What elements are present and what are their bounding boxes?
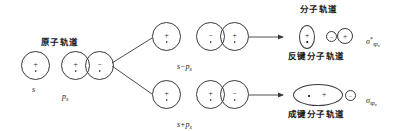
sigma-star-notation: σ*spx bbox=[366, 31, 380, 48]
antibonding-minor-lobe-negative-sign: − bbox=[327, 34, 336, 40]
atomic-orbital-title: 原子轨道 bbox=[41, 38, 79, 47]
combo-plus-s-lobe: + bbox=[152, 80, 181, 109]
orbital-px-positive-dot bbox=[75, 70, 77, 72]
molecular-orbital-diagram: 原子轨道 + s + − px + − + s−px + + − bbox=[0, 0, 402, 131]
sigma-bond-notation: σspx bbox=[366, 90, 377, 107]
combo-plus-px-negative-dot bbox=[234, 99, 236, 101]
combo-plus-px-negative-sign: − bbox=[221, 90, 248, 98]
combo-minus-px-lobe-positive: + bbox=[220, 22, 249, 51]
combo-minus-s-sign: + bbox=[153, 32, 180, 40]
orbital-px-label-sub: x bbox=[66, 96, 68, 102]
antibonding-minor-lobe-positive: + bbox=[337, 28, 353, 44]
combo-plus-label-base: s+p bbox=[177, 120, 190, 129]
combo-plus-px-lobe-negative: − bbox=[220, 80, 249, 109]
sigma-bond-subscript-sub: x bbox=[375, 102, 377, 107]
orbital-px-negative-dot bbox=[99, 70, 101, 72]
bonding-orbital-label: 成键分子轨道 bbox=[288, 110, 344, 119]
combo-minus-s-dot bbox=[166, 41, 168, 43]
antibonding-major-lobe-dot bbox=[306, 41, 308, 43]
antibonding-major-lobe: + bbox=[299, 25, 315, 49]
combo-minus-s-lobe: + bbox=[152, 22, 181, 51]
bonding-major-lobe-sign: + bbox=[306, 91, 342, 99]
combo-minus-label: s−px bbox=[177, 56, 192, 72]
combo-plus-s-dot bbox=[166, 99, 168, 101]
combo-minus-px-positive-sign: + bbox=[221, 32, 248, 40]
antibonding-major-lobe-sign: + bbox=[300, 32, 314, 40]
bonding-major-lobe: + bbox=[293, 84, 343, 106]
orbital-s-label: s bbox=[32, 86, 35, 94]
orbital-px-negative-sign: − bbox=[86, 61, 113, 69]
molecular-orbital-title: 分子轨道 bbox=[300, 5, 338, 14]
antibonding-minor-lobe-positive-sign: + bbox=[338, 33, 352, 41]
orbital-s: + bbox=[21, 51, 50, 80]
branch-line-lower bbox=[112, 66, 152, 94]
combo-minus-label-base: s−p bbox=[177, 62, 190, 71]
sigma-star-subscript-sub: x bbox=[378, 43, 380, 48]
orbital-s-nucleus-dot bbox=[35, 70, 37, 72]
orbital-px-lobe-negative: − bbox=[85, 51, 114, 80]
orbital-s-sign: + bbox=[22, 61, 49, 69]
combo-plus-px-positive-dot bbox=[210, 99, 212, 101]
combo-minus-label-sub: x bbox=[190, 66, 192, 72]
orbital-px-label: px bbox=[62, 86, 68, 102]
combo-minus-px-negative-dot bbox=[210, 41, 212, 43]
combo-minus-px-positive-dot bbox=[234, 41, 236, 43]
branch-line-upper bbox=[112, 38, 152, 63]
antibonding-orbital-label: 反键分子轨道 bbox=[288, 52, 344, 61]
combo-plus-label-sub: x bbox=[190, 124, 192, 130]
antibonding-minor-lobe-negative: − bbox=[326, 31, 337, 42]
bonding-minor-lobe-negative-sign: − bbox=[346, 93, 355, 99]
combo-plus-s-sign: + bbox=[153, 90, 180, 98]
combo-plus-label: s+px bbox=[177, 114, 192, 130]
bonding-minor-lobe-negative: − bbox=[345, 90, 356, 101]
